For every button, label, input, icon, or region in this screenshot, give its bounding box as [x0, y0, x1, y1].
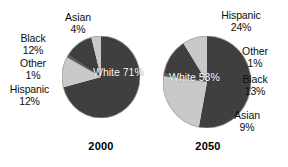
label-pct: 1% [232, 58, 278, 70]
label-pct: 12% [8, 45, 58, 57]
label-asian-2000: Asian 4% [54, 12, 102, 35]
label-name: Hispanic [210, 10, 272, 22]
label-asian-2050: Asian 9% [222, 110, 272, 133]
label-white-2000: White 71% [93, 67, 135, 79]
label-pct: 53% [199, 71, 220, 83]
label-name: White [93, 66, 120, 78]
label-name: Other [232, 46, 278, 58]
label-name: Asian [222, 110, 272, 122]
label-name: Other [8, 58, 58, 70]
year-label-2050: 2050 [180, 140, 236, 152]
label-pct: 1% [8, 70, 58, 82]
label-white-2050: White 53% [169, 72, 211, 84]
label-name: Hispanic [1, 84, 58, 96]
year-label-2000: 2000 [73, 140, 129, 152]
label-other-2050: Other 1% [232, 46, 278, 69]
label-other-2000: Other 1% [8, 58, 58, 81]
label-name: White [169, 71, 196, 83]
label-pct: 9% [222, 122, 272, 134]
label-pct: 13% [232, 86, 278, 98]
chart-2050: Hispanic 24% Other 1% Black 13% Asian 9%… [150, 0, 288, 167]
label-pct: 12% [1, 96, 58, 108]
label-black-2000: Black 12% [8, 33, 58, 56]
label-name: Asian [54, 12, 102, 24]
label-name: Black [8, 33, 58, 45]
label-name: Black [232, 74, 278, 86]
label-black-2050: Black 13% [232, 74, 278, 97]
label-hispanic-2050: Hispanic 24% [210, 10, 272, 33]
pie-chart-figure: Asian 4% Black 12% Other 1% Hispanic 12%… [0, 0, 288, 167]
label-pct: 24% [210, 22, 272, 34]
label-pct: 4% [54, 24, 102, 36]
label-hispanic-2000: Hispanic 12% [1, 84, 58, 107]
chart-2000: Asian 4% Black 12% Other 1% Hispanic 12%… [0, 0, 150, 167]
label-pct: 71% [123, 66, 144, 78]
